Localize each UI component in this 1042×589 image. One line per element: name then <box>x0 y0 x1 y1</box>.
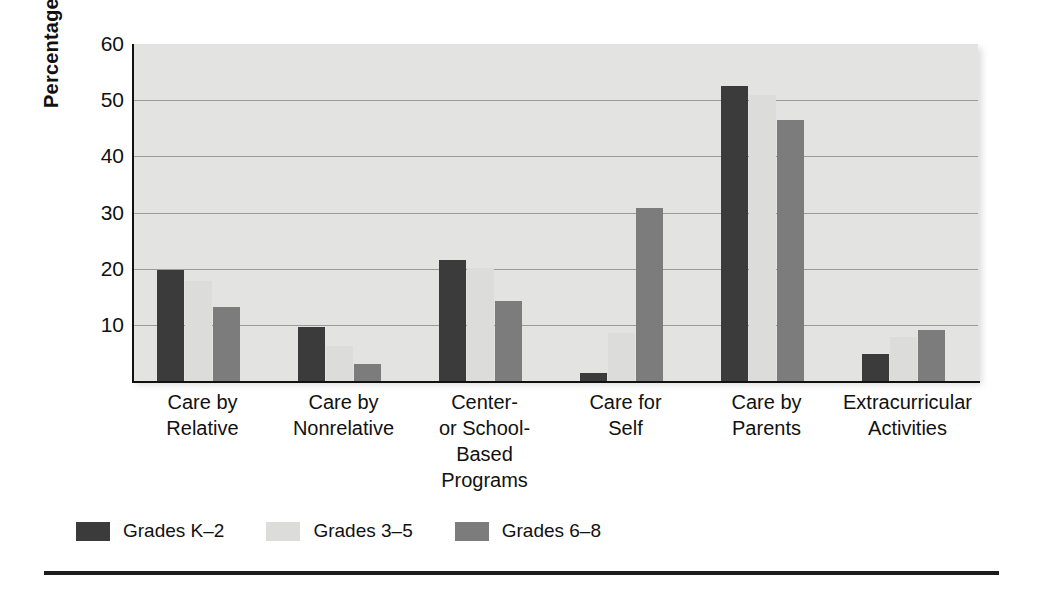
bar <box>467 268 494 381</box>
legend-label: Grades K–2 <box>123 520 224 542</box>
legend-swatch-icon <box>76 522 110 541</box>
bar <box>326 346 353 381</box>
legend-item: Grades K–2 <box>76 520 224 542</box>
legend-label: Grades 3–5 <box>313 520 412 542</box>
bar <box>862 354 889 381</box>
bar <box>298 327 325 381</box>
category-label-line: Care by <box>122 389 283 415</box>
legend-item: Grades 6–8 <box>455 520 601 542</box>
chart-legend: Grades K–2Grades 3–5Grades 6–8 <box>76 520 643 542</box>
x-axis-category-labels: Care byRelativeCare byNonrelativeCenter-… <box>132 389 978 499</box>
legend-label: Grades 6–8 <box>502 520 601 542</box>
x-axis-line <box>132 381 980 383</box>
legend-swatch-icon <box>266 522 300 541</box>
bar <box>777 120 804 381</box>
category-label-line: Based <box>404 441 565 467</box>
bar <box>213 307 240 381</box>
bars-layer <box>132 44 978 381</box>
bar <box>890 337 917 381</box>
bar-chart-figure: Percentage 102030405060 Care byRelativeC… <box>0 0 1042 589</box>
x-axis-category-label: ExtracurricularActivities <box>827 389 988 441</box>
x-axis-category-label: Center-or School-BasedPrograms <box>404 389 565 493</box>
y-tick-label: 10 <box>78 314 124 335</box>
y-tick-label: 40 <box>78 145 124 166</box>
bar <box>495 301 522 381</box>
legend-item: Grades 3–5 <box>266 520 412 542</box>
bar <box>918 330 945 381</box>
bar <box>749 95 776 381</box>
category-label-line: Care by <box>263 389 424 415</box>
y-tick-label: 50 <box>78 89 124 110</box>
category-label-line: Nonrelative <box>263 415 424 441</box>
x-axis-category-label: Care byNonrelative <box>263 389 424 441</box>
x-axis-category-label: Care forSelf <box>545 389 706 441</box>
category-label-line: Relative <box>122 415 283 441</box>
category-label-line: Care for <box>545 389 706 415</box>
bar <box>608 333 635 381</box>
bar <box>157 270 184 381</box>
y-tick-label: 20 <box>78 258 124 279</box>
bar <box>636 208 663 381</box>
y-tick-label: 30 <box>78 202 124 223</box>
category-label-line: Extracurricular <box>827 389 988 415</box>
category-label-line: Care by <box>686 389 847 415</box>
category-label-line: Center- <box>404 389 565 415</box>
bar <box>354 364 381 381</box>
category-label-line: Parents <box>686 415 847 441</box>
bar <box>721 86 748 381</box>
bottom-rule <box>44 571 999 575</box>
category-label-line: Programs <box>404 467 565 493</box>
x-axis-category-label: Care byRelative <box>122 389 283 441</box>
y-axis-title: Percentage <box>36 0 66 158</box>
legend-swatch-icon <box>455 522 489 541</box>
bar <box>439 260 466 381</box>
bar <box>185 281 212 381</box>
y-tick-label: 60 <box>78 33 124 54</box>
category-label-line: or School- <box>404 415 565 441</box>
category-label-line: Activities <box>827 415 988 441</box>
bar <box>580 373 607 381</box>
category-label-line: Self <box>545 415 706 441</box>
y-axis-line <box>132 44 134 383</box>
x-axis-category-label: Care byParents <box>686 389 847 441</box>
